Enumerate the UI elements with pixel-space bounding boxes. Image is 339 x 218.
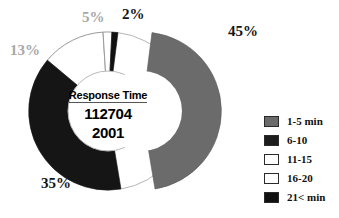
legend-label-21-plus-min: 21< min	[287, 192, 325, 203]
legend-swatch-1-5-min	[264, 116, 279, 127]
center-number: 112704	[44, 106, 172, 122]
legend-item-1-5-min[interactable]: 1-5 min	[264, 112, 339, 130]
legend: 1-5 min 6-10 11-15 16-20 21< min	[264, 112, 339, 207]
legend-swatch-11-15	[264, 154, 279, 165]
legend-label-11-15: 11-15	[287, 154, 312, 165]
legend-item-21-plus-min[interactable]: 21< min	[264, 188, 339, 206]
data-label-13: 13%	[10, 43, 40, 58]
legend-label-6-10: 6-10	[287, 135, 307, 146]
center-year: 2001	[44, 125, 172, 141]
data-label-2: 2%	[122, 7, 145, 22]
legend-item-6-10[interactable]: 6-10	[264, 131, 339, 149]
legend-swatch-21-plus-min	[264, 192, 279, 203]
legend-item-11-15[interactable]: 11-15	[264, 150, 339, 168]
chart-screenshot: 45% 2% 5% 13% 35% Response Time 112704 2…	[0, 0, 339, 218]
doughnut-center-label: Response Time 112704 2001	[44, 86, 172, 140]
center-title: Response Time	[69, 90, 148, 103]
legend-label-1-5-min: 1-5 min	[287, 116, 323, 127]
data-label-5: 5%	[82, 10, 105, 25]
legend-item-16-20[interactable]: 16-20	[264, 169, 339, 187]
data-label-45: 45%	[228, 24, 258, 39]
legend-swatch-16-20	[264, 173, 279, 184]
legend-label-16-20: 16-20	[287, 173, 313, 184]
legend-swatch-6-10	[264, 135, 279, 146]
data-label-35: 35%	[41, 176, 71, 191]
